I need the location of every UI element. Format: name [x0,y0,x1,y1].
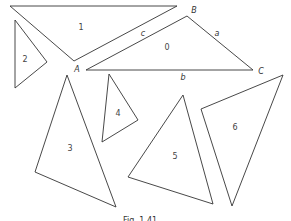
triangle-3-label: 3 [67,144,72,153]
triangle-6-label: 6 [232,123,237,132]
side-label-b: b [180,73,185,82]
triangle-1-label: 1 [78,23,83,32]
triangle-4-label: 4 [115,109,120,118]
vertex-label-C: C [258,67,264,76]
triangle-1 [10,6,177,61]
vertex-label-A: A [73,65,79,74]
triangle-5-label: 5 [172,152,177,161]
triangle-6 [201,75,283,206]
triangle-2-label: 2 [22,55,27,64]
side-label-a: a [215,29,220,38]
triangle-2 [15,20,47,88]
triangle-0-label: 0 [164,43,169,52]
triangle-5 [128,95,213,204]
vertex-label-B: B [191,6,197,15]
triangles-diagram: 1 0 A B C a b c 2 3 4 5 6 Fig. 1.41 [0,0,291,221]
figure-caption: Fig. 1.41 [123,216,157,221]
side-label-c: c [141,29,146,38]
